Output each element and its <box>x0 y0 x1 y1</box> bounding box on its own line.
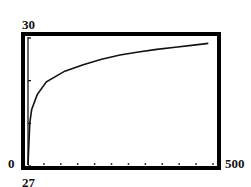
x-axis-tick-dots <box>43 163 214 165</box>
function-curve <box>28 43 208 165</box>
graph-screen <box>0 0 251 187</box>
